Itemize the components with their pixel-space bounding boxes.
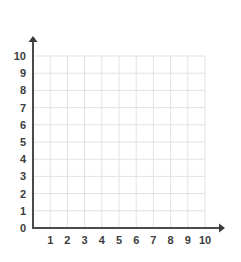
y-axis-tick-label: 3 [20,170,26,182]
x-axis-tick-label: 4 [99,234,106,246]
x-axis-tick-label: 7 [150,234,156,246]
x-axis-tick-label: 8 [168,234,174,246]
coordinate-grid-figure: 10987654321012345678910 [0,0,241,262]
y-axis-tick-label: 4 [20,153,27,165]
y-axis-tick-label: 5 [20,136,26,148]
x-axis-tick-label: 10 [199,234,211,246]
arrow-up-icon [29,36,38,42]
y-axis-tick-label: 10 [14,50,26,62]
coordinate-plane-svg: 10987654321012345678910 [0,0,241,262]
x-axis-tick-label: 1 [47,234,53,246]
origin-label: 0 [20,222,26,234]
arrow-right-icon [219,224,225,233]
x-axis-tick-label: 9 [185,234,191,246]
y-axis-tick-label: 7 [20,102,26,114]
y-axis-tick-label: 8 [20,84,26,96]
y-axis-tick-label: 6 [20,119,26,131]
y-axis-tick-label: 9 [20,67,26,79]
x-axis-tick-label: 6 [133,234,139,246]
y-axis-tick-label: 1 [20,205,26,217]
x-axis-tick-label: 3 [82,234,88,246]
y-axis-tick-label: 2 [20,188,26,200]
x-axis-tick-label: 5 [116,234,122,246]
x-axis-tick-label: 2 [64,234,70,246]
